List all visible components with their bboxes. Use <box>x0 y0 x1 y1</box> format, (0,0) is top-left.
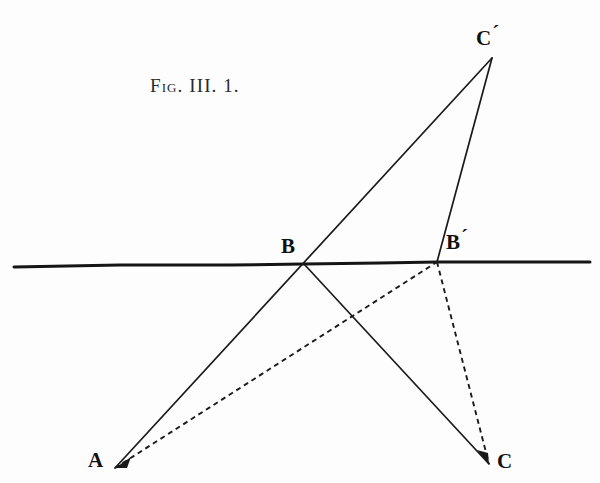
prime-mark-b: ´ <box>461 225 468 249</box>
point-label-b: B <box>281 236 295 257</box>
point-label-c: C <box>497 451 512 472</box>
point-label-a: A <box>88 450 103 471</box>
point-label-c-prime-letter: C <box>476 26 491 50</box>
figure-caption: Fig. III. 1. <box>150 74 240 98</box>
point-label-c-prime: C´ <box>476 28 498 49</box>
figure-page: Fig. III. 1. A B B´ C C´ <box>0 0 600 483</box>
segment-Bprime-to-C <box>437 262 489 464</box>
segment-B-to-C <box>304 264 489 464</box>
prime-mark-c: ´ <box>492 21 499 45</box>
figure-canvas <box>0 0 600 483</box>
point-label-b-prime: B´ <box>446 232 467 253</box>
point-label-b-prime-letter: B <box>446 230 460 254</box>
